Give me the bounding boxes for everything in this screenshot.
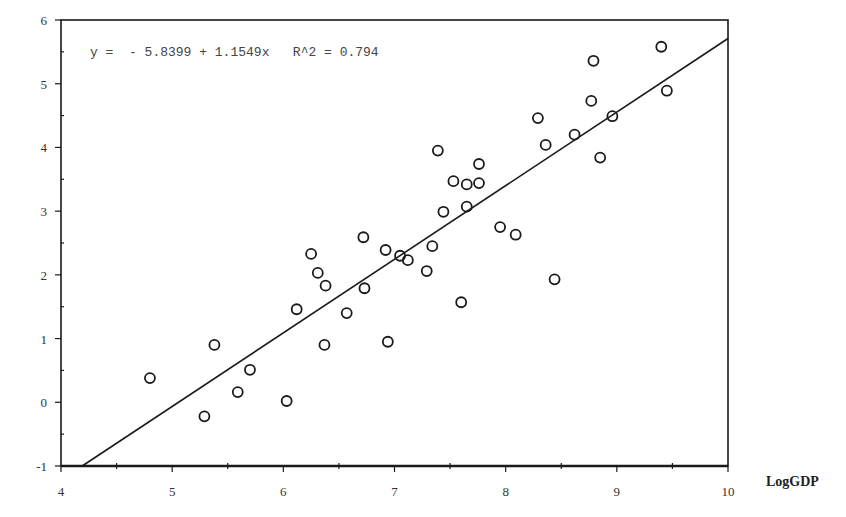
x-tick-label: 5 (169, 484, 176, 499)
data-point (233, 387, 243, 397)
data-point (462, 179, 472, 189)
data-point (607, 111, 617, 121)
x-axis: 45678910 (58, 463, 735, 499)
y-tick-label: 3 (41, 204, 48, 219)
data-point (456, 297, 466, 307)
data-point (306, 249, 316, 259)
x-tick-label: 8 (502, 484, 509, 499)
data-point (292, 304, 302, 314)
data-point (358, 232, 368, 242)
data-point (448, 176, 458, 186)
data-point (511, 230, 521, 240)
data-point (433, 146, 443, 156)
x-tick-label: 4 (58, 484, 65, 499)
data-point (495, 222, 505, 232)
data-point (438, 207, 448, 217)
data-point (383, 337, 393, 347)
data-point (245, 365, 255, 375)
data-point (474, 159, 484, 169)
data-point (474, 178, 484, 188)
data-point (541, 140, 551, 150)
data-point (381, 245, 391, 255)
regression-equation: y = - 5.8399 + 1.1549x R^2 = 0.794 (90, 45, 379, 60)
data-point (319, 340, 329, 350)
data-point (321, 281, 331, 291)
y-tick-label: -1 (36, 459, 47, 474)
data-point (595, 153, 605, 163)
x-tick-label: 9 (614, 484, 621, 499)
data-point (145, 373, 155, 383)
y-tick-label: 6 (41, 13, 48, 28)
data-point (427, 241, 437, 251)
y-tick-label: 5 (41, 77, 48, 92)
data-point (662, 86, 672, 96)
data-point (282, 396, 292, 406)
data-point (342, 308, 352, 318)
data-point (586, 96, 596, 106)
data-point (199, 411, 209, 421)
data-point (422, 266, 432, 276)
x-tick-label: 6 (280, 484, 287, 499)
data-point (403, 255, 413, 265)
y-tick-label: 2 (41, 268, 48, 283)
plot-frame (61, 20, 728, 466)
data-point (656, 42, 666, 52)
y-tick-label: 0 (41, 395, 48, 410)
y-axis: -10123456 (36, 13, 64, 474)
data-point (209, 340, 219, 350)
x-axis-label: LogGDP (766, 474, 819, 489)
x-tick-label: 10 (722, 484, 735, 499)
data-point (570, 130, 580, 140)
data-points (145, 42, 672, 422)
data-point (588, 56, 598, 66)
data-point (359, 283, 369, 293)
y-tick-label: 1 (41, 332, 48, 347)
data-point (533, 113, 543, 123)
regression-line (82, 39, 728, 466)
data-point (462, 202, 472, 212)
y-tick-label: 4 (41, 140, 48, 155)
data-point (313, 268, 323, 278)
scatter-chart: -10123456 45678910 y = - 5.8399 + 1.1549… (0, 0, 846, 517)
data-point (550, 274, 560, 284)
x-tick-label: 7 (391, 484, 398, 499)
